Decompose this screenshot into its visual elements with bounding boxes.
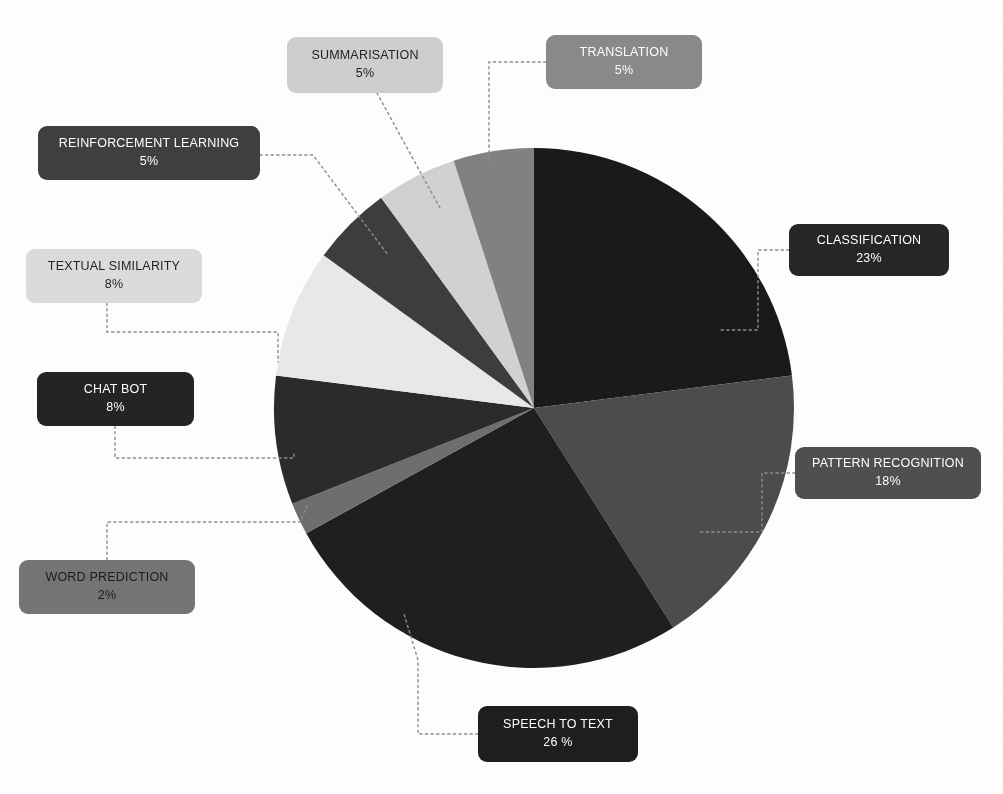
callout-label-translation: TRANSLATION — [580, 45, 669, 61]
callout-label-reinforcement-learning: REINFORCEMENT LEARNING — [59, 136, 240, 152]
callout-label-speech-to-text: SPEECH TO TEXT — [503, 717, 613, 733]
callout-summarisation[interactable]: SUMMARISATION5% — [287, 37, 443, 93]
callout-value-translation: 5% — [615, 63, 633, 79]
callout-value-textual-similarity: 8% — [105, 277, 123, 293]
callout-speech-to-text[interactable]: SPEECH TO TEXT26 % — [478, 706, 638, 762]
callout-reinforcement-learning[interactable]: REINFORCEMENT LEARNING5% — [38, 126, 260, 180]
callout-value-pattern-recognition: 18% — [875, 474, 901, 490]
pie-slice-classification[interactable] — [534, 148, 792, 408]
callout-chat-bot[interactable]: CHAT BOT8% — [37, 372, 194, 426]
callout-label-word-prediction: WORD PREDICTION — [45, 570, 168, 586]
callout-value-summarisation: 5% — [356, 66, 374, 82]
callout-label-pattern-recognition: PATTERN RECOGNITION — [812, 456, 964, 472]
callout-label-classification: CLASSIFICATION — [817, 233, 922, 249]
callout-label-chat-bot: CHAT BOT — [84, 382, 148, 398]
callout-pattern-recognition[interactable]: PATTERN RECOGNITION18% — [795, 447, 981, 499]
callout-value-word-prediction: 2% — [98, 588, 116, 604]
callout-value-reinforcement-learning: 5% — [140, 154, 158, 170]
callout-textual-similarity[interactable]: TEXTUAL SIMILARITY8% — [26, 249, 202, 303]
pie-chart-figure: CLASSIFICATION23%PATTERN RECOGNITION18%S… — [0, 0, 1003, 794]
callout-word-prediction[interactable]: WORD PREDICTION2% — [19, 560, 195, 614]
callout-classification[interactable]: CLASSIFICATION23% — [789, 224, 949, 276]
callout-value-speech-to-text: 26 % — [543, 735, 572, 751]
callout-value-classification: 23% — [856, 251, 882, 267]
callout-label-summarisation: SUMMARISATION — [311, 48, 418, 64]
callout-translation[interactable]: TRANSLATION5% — [546, 35, 702, 89]
callout-label-textual-similarity: TEXTUAL SIMILARITY — [48, 259, 180, 275]
callout-value-chat-bot: 8% — [106, 400, 124, 416]
